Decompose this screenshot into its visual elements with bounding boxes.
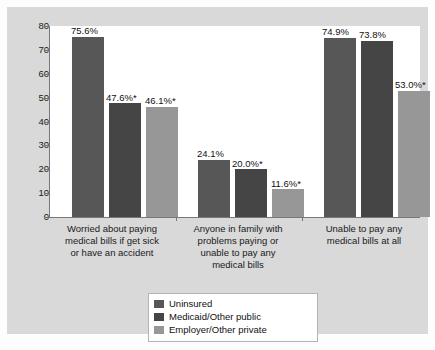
category-label-line: Worried about paying xyxy=(49,223,175,235)
legend-item-employer-other-private: Employer/Other private xyxy=(154,324,311,336)
bar-value-label: 46.1%* xyxy=(145,96,176,106)
bar-value-label: 53.0%* xyxy=(395,80,426,90)
bar-chart-panel: 80 70 60 50 40 30 20 10 0 75.6% xyxy=(7,7,428,334)
legend-swatch-icon xyxy=(154,300,164,308)
legend-swatch-icon xyxy=(154,326,164,334)
bar-g3-medicaid xyxy=(361,41,393,217)
chart-legend: Uninsured Medicaid/Other public Employer… xyxy=(148,293,318,342)
bar-value-label: 20.0%* xyxy=(232,159,263,169)
legend-item-label: Medicaid/Other public xyxy=(169,312,261,322)
category-label-line: medical bills xyxy=(175,259,301,271)
bar-g1-uninsured xyxy=(72,37,104,218)
legend-item-medicaid-other-public: Medicaid/Other public xyxy=(154,311,311,323)
legend-item-label: Employer/Other private xyxy=(169,325,267,335)
bar-g1-employer xyxy=(146,107,178,217)
category-label-line: problems paying or xyxy=(175,235,301,247)
figure-frame: 80 70 60 50 40 30 20 10 0 75.6% xyxy=(0,0,435,350)
plot-area: 75.6% 47.6%* 46.1%* 24.1% 20.0%* 11.6%* … xyxy=(49,26,420,218)
y-axis-tick-labels: 80 70 60 50 40 30 20 10 0 xyxy=(7,26,49,217)
bar-g2-medicaid xyxy=(235,169,267,217)
bar-g2-employer xyxy=(272,189,304,217)
category-label-line: medical bills if get sick xyxy=(49,235,175,247)
bar-value-label: 74.9% xyxy=(322,27,349,37)
x-axis-group-separator xyxy=(302,217,303,221)
bar-value-label: 11.6%* xyxy=(271,179,301,189)
bar-value-label: 47.6%* xyxy=(106,93,137,103)
legend-item-uninsured: Uninsured xyxy=(154,298,311,310)
bar-g2-uninsured xyxy=(198,160,230,218)
bar-g3-uninsured xyxy=(324,38,356,217)
category-label-group-2: Anyone in family with problems paying or… xyxy=(175,223,301,271)
figure-footnote xyxy=(10,339,425,348)
category-label-line: Unable to pay any xyxy=(301,223,427,235)
bar-value-label: 75.6% xyxy=(71,26,98,36)
bar-value-label: 24.1% xyxy=(197,149,224,159)
category-label-line: Anyone in family with xyxy=(175,223,301,235)
bar-g1-medicaid xyxy=(109,103,141,217)
category-label-group-1: Worried about paying medical bills if ge… xyxy=(49,223,175,259)
category-label-line: unable to pay any xyxy=(175,247,301,259)
category-label-line: or have an accident xyxy=(49,247,175,259)
x-axis-group-separator xyxy=(176,217,177,221)
bar-value-label: 73.8% xyxy=(359,30,386,40)
legend-swatch-icon xyxy=(154,313,164,321)
category-label-group-3: Unable to pay any medical bills at all xyxy=(301,223,427,247)
legend-item-label: Uninsured xyxy=(169,299,212,309)
bar-g3-employer xyxy=(398,91,430,218)
category-label-line: medical bills at all xyxy=(301,235,427,247)
